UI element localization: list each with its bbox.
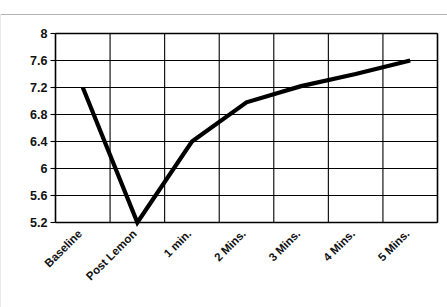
y-tick-label: 7.2 [30, 81, 47, 95]
y-axis-tick-labels: 5.25.666.46.87.27.68 [30, 27, 55, 230]
x-tick-label: 2 Mins. [212, 227, 248, 263]
x-tick-label: 3 Mins. [266, 227, 302, 263]
y-tick-label: 5.2 [30, 216, 47, 230]
y-tick-label: 8 [41, 27, 48, 41]
y-tick-label: 5.6 [30, 189, 47, 203]
y-tick-label: 6 [41, 162, 48, 176]
y-tick-label: 6.4 [30, 135, 47, 149]
x-axis-tick-labels: BaselinePost Lemon1 min.2 Mins.3 Mins.4 … [42, 227, 411, 282]
x-tick-label: 5 Mins. [376, 227, 412, 263]
y-tick-label: 6.8 [30, 108, 47, 122]
chart-figure: 5.25.666.46.87.27.68 BaselinePost Lemon1… [0, 0, 447, 307]
x-tick-label: 4 Mins. [321, 227, 357, 263]
x-tick-label: Post Lemon [84, 227, 139, 282]
grid-lines [56, 34, 438, 223]
x-tick-label: Baseline [42, 227, 84, 269]
axis-lines [56, 34, 438, 223]
x-tick-label: 1 min. [161, 227, 193, 259]
line-chart-plot: 5.25.666.46.87.27.68 BaselinePost Lemon1… [0, 0, 447, 307]
y-tick-label: 7.6 [30, 54, 47, 68]
